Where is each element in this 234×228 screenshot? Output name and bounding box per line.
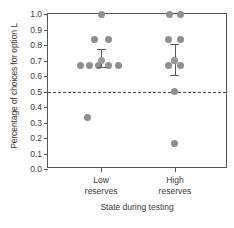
- data-point: [177, 11, 184, 18]
- error-bar-cap-lower: [170, 75, 179, 76]
- y-tick-label: 0.4: [30, 102, 42, 112]
- data-point: [105, 62, 112, 69]
- x-tick-label: Lowreserves: [85, 175, 118, 197]
- y-tick-label: 0.7: [30, 56, 42, 66]
- y-tick-label: 0.8: [30, 40, 42, 50]
- y-tick-label: 0.6: [30, 71, 42, 81]
- y-tick-mark: [44, 30, 48, 31]
- scatter-chart-figure: Percentage of choices for option L 0.00.…: [0, 0, 234, 228]
- error-bar-cap-upper: [170, 44, 179, 45]
- x-tick-label: Highreserves: [159, 175, 192, 197]
- y-tick-mark: [44, 169, 48, 170]
- y-tick-mark: [44, 45, 48, 46]
- y-tick-label: 0.5: [30, 87, 42, 97]
- x-tick-mark: [175, 167, 176, 172]
- y-tick-label: 0.0: [30, 164, 42, 174]
- y-tick-mark: [44, 76, 48, 77]
- plot-inner: 0.00.10.20.30.40.50.60.70.80.91.0 Lowres…: [48, 14, 226, 167]
- x-axis-title: State during testing: [47, 202, 227, 212]
- data-point: [177, 36, 184, 43]
- y-tick-mark: [44, 138, 48, 139]
- error-bar-cap-lower: [97, 67, 106, 68]
- reference-line-05: [48, 92, 226, 93]
- y-tick-label: 0.2: [30, 133, 42, 143]
- y-tick-mark: [44, 107, 48, 108]
- y-tick-mark: [44, 154, 48, 155]
- x-tick-mark: [101, 167, 102, 172]
- data-point: [165, 36, 172, 43]
- data-point: [166, 11, 173, 18]
- y-tick-label: 0.9: [30, 25, 42, 35]
- y-tick-label: 0.1: [30, 149, 42, 159]
- x-tick-label-line1: High: [159, 175, 192, 186]
- x-tick-label-line2: reserves: [85, 186, 118, 197]
- data-point: [105, 36, 112, 43]
- y-tick-mark: [44, 61, 48, 62]
- data-point: [91, 36, 98, 43]
- x-tick-label-line1: Low: [85, 175, 118, 186]
- data-point: [98, 11, 105, 18]
- y-tick-label: 0.3: [30, 118, 42, 128]
- data-point: [115, 62, 122, 69]
- mean-marker: [98, 57, 105, 64]
- y-tick-label: 1.0: [30, 9, 42, 19]
- x-tick-label-line2: reserves: [159, 186, 192, 197]
- y-tick-mark: [44, 14, 48, 15]
- data-point: [86, 62, 93, 69]
- data-point: [177, 62, 184, 69]
- data-point: [171, 88, 178, 95]
- plot-area: 0.00.10.20.30.40.50.60.70.80.91.0 Lowres…: [47, 13, 227, 168]
- y-tick-mark: [44, 123, 48, 124]
- error-bar-cap-upper: [97, 49, 106, 50]
- data-point: [171, 140, 178, 147]
- data-point: [77, 62, 84, 69]
- data-point: [84, 114, 91, 121]
- y-axis-title: Percentage of choices for option L: [9, 6, 19, 166]
